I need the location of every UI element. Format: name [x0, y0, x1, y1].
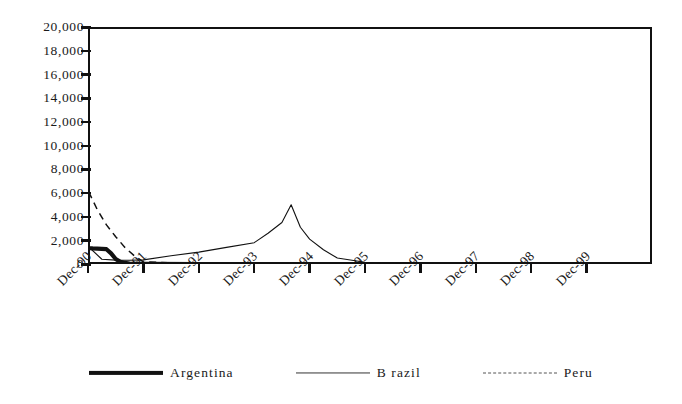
series-line-peru: [88, 116, 587, 264]
legend-label: Argentina: [170, 365, 234, 381]
legend-item-brazil[interactable]: B razil: [296, 365, 421, 381]
series-line-argentina: [88, 27, 587, 264]
chart-legend: ArgentinaB razilPeru: [0, 358, 682, 388]
y-axis-tick-label: 20,000: [43, 20, 86, 34]
thin-solid-line-swatch: [296, 367, 370, 379]
series-layer: [88, 27, 652, 264]
y-axis-tick-label: 14,000: [43, 91, 86, 105]
legend-item-argentina[interactable]: Argentina: [89, 365, 234, 381]
y-axis-tick-label: 18,000: [43, 43, 86, 57]
line-chart: 02,0004,0006,0008,00010,00012,00014,0001…: [0, 0, 682, 404]
dashed-line-swatch: [483, 367, 557, 379]
series-line-brazil: [88, 185, 587, 264]
legend-label: Peru: [564, 365, 593, 381]
legend-label: B razil: [377, 365, 421, 381]
y-axis-tick-label: 16,000: [43, 67, 86, 81]
legend-item-peru[interactable]: Peru: [483, 365, 593, 381]
thick-solid-line-swatch: [89, 367, 163, 379]
y-axis: 02,0004,0006,0008,00010,00012,00014,0001…: [0, 0, 88, 300]
y-axis-tick-label: 10,000: [43, 138, 86, 152]
y-axis-tick-label: 12,000: [43, 115, 86, 129]
